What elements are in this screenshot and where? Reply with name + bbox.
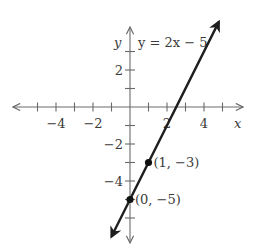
coordinate-plane: −4−224 2−2−4 x y y = 2x − 5 (1, −3)(0, −… xyxy=(0,0,254,251)
point-label: (1, −3) xyxy=(154,155,200,170)
x-axis-label: x xyxy=(234,116,242,131)
x-tick-label: 4 xyxy=(200,116,208,131)
equation-label: y = 2x − 5 xyxy=(137,35,208,50)
x-tick-label: −2 xyxy=(83,116,102,131)
point-label: (0, −5) xyxy=(135,192,181,207)
labeled-points: (1, −3)(0, −5) xyxy=(126,155,199,207)
y-tick-labels: 2−2−4 xyxy=(104,63,123,189)
x-tick-label: −4 xyxy=(46,116,65,131)
y-axis-label: y xyxy=(113,35,122,50)
point-marker xyxy=(126,196,133,203)
y-tick-label: 2 xyxy=(115,63,123,78)
y-tick-label: −2 xyxy=(104,137,123,152)
point-marker xyxy=(145,159,152,166)
x-tick-labels: −4−224 xyxy=(46,116,208,131)
y-tick-label: −4 xyxy=(104,174,123,189)
